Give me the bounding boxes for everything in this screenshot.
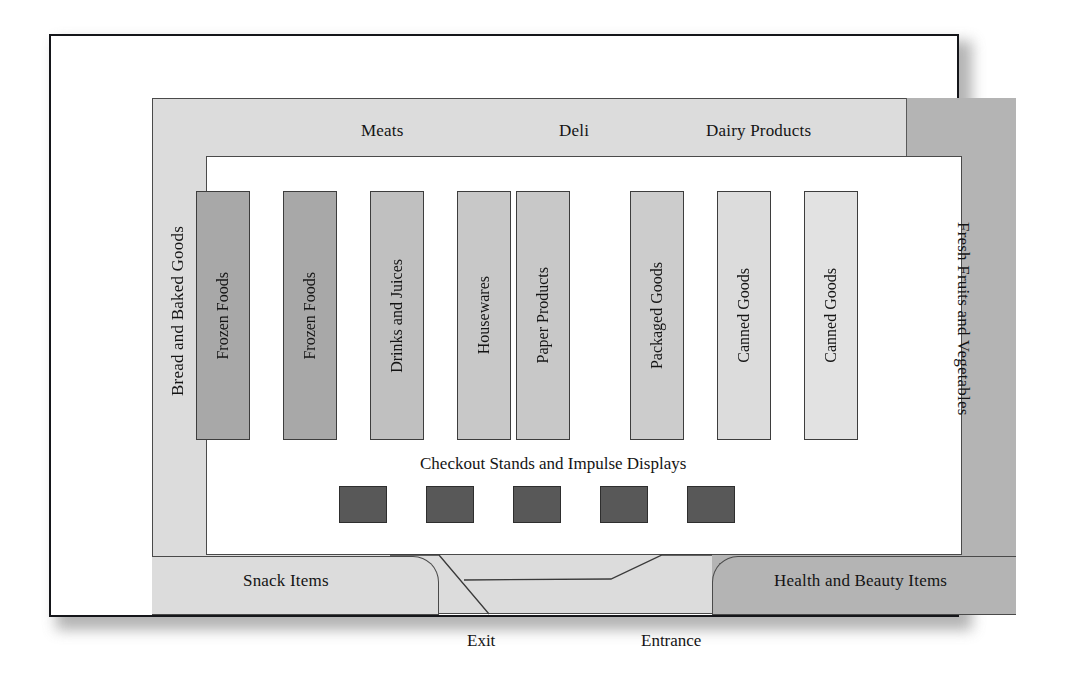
entrance-label: Entrance [641, 631, 701, 651]
store-layout-diagram: Meats Deli Dairy Products Bread and Bake… [0, 0, 1070, 683]
door-leader-lines [51, 36, 961, 619]
diagram-frame: Meats Deli Dairy Products Bread and Bake… [49, 34, 959, 617]
exit-label: Exit [467, 631, 495, 651]
